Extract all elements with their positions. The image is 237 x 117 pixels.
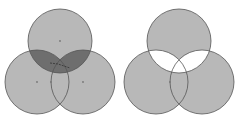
right-intersection-dot: [169, 81, 171, 83]
left-center-dot-top: [59, 40, 61, 42]
right-venn-figure: [124, 9, 234, 114]
left-intersection-dot: [50, 81, 52, 83]
left-center-dot-bottom-left: [36, 81, 38, 83]
left-center-dot-bottom-right: [82, 81, 84, 83]
left-venn-figure: [5, 9, 115, 114]
venn-diagrams: [0, 0, 237, 117]
